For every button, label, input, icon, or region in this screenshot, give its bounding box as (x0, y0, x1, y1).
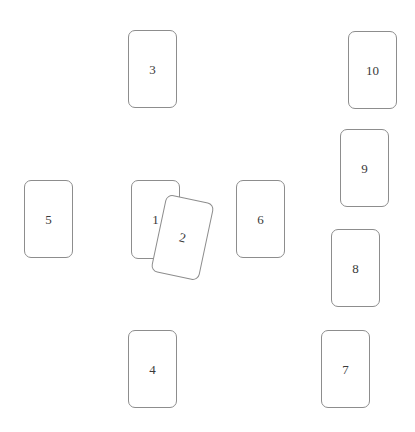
card-label: 7 (342, 363, 349, 376)
card-board: 12345678910 (0, 0, 415, 432)
card-label: 4 (149, 363, 156, 376)
card-4[interactable]: 4 (128, 330, 177, 408)
card-label: 6 (257, 213, 264, 226)
card-5[interactable]: 5 (24, 180, 73, 258)
card-3[interactable]: 3 (128, 30, 177, 108)
card-label: 3 (149, 63, 156, 76)
card-9[interactable]: 9 (340, 129, 389, 207)
card-10[interactable]: 10 (348, 31, 397, 109)
card-7[interactable]: 7 (321, 330, 370, 408)
card-6[interactable]: 6 (236, 180, 285, 258)
card-label: 9 (361, 162, 368, 175)
card-label: 5 (45, 213, 52, 226)
card-8[interactable]: 8 (331, 229, 380, 307)
card-label: 8 (352, 262, 359, 275)
card-label: 2 (178, 230, 187, 244)
card-label: 1 (152, 213, 159, 226)
card-label: 10 (366, 64, 379, 77)
